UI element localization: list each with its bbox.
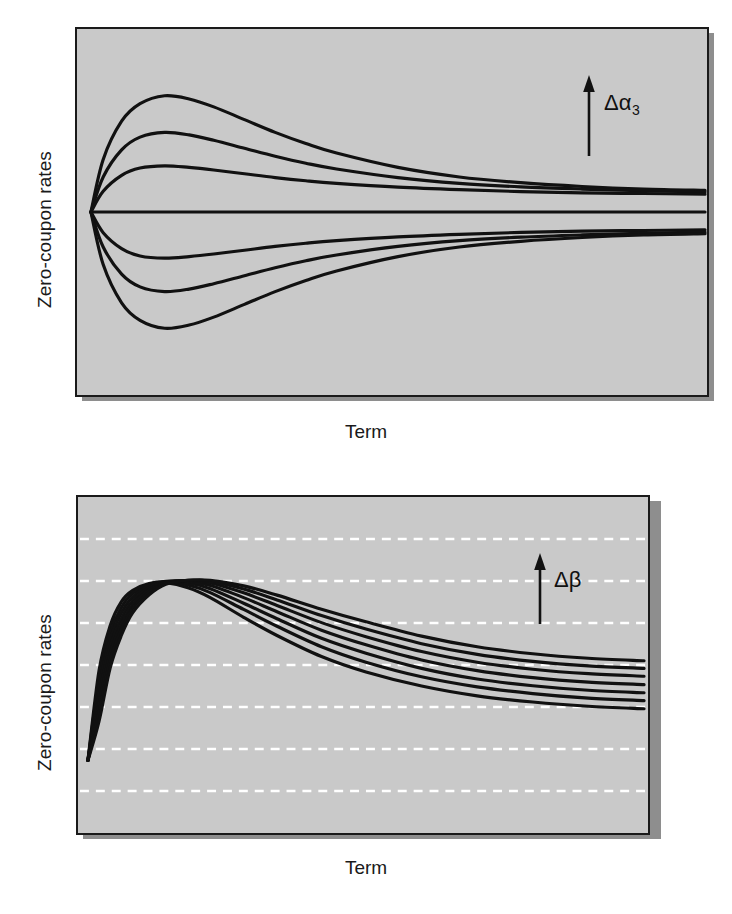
curve-line (91, 132, 705, 212)
bottom-x-axis-label: Term (0, 857, 732, 879)
figure-page: Zero-coupon rates Term Δα3 Zero-coupon r… (0, 0, 732, 914)
top-x-axis-label: Term (0, 421, 732, 443)
curve-line (88, 580, 644, 761)
top-plot-frame (75, 27, 709, 397)
curve-line (91, 212, 705, 292)
top-up-arrow-icon (578, 72, 600, 158)
top-y-axis-label: Zero-coupon rates (34, 151, 56, 308)
bottom-annotation-label: Δβ (554, 569, 582, 594)
bottom-y-axis-label: Zero-coupon rates (34, 614, 56, 771)
bottom-panel: Zero-coupon rates Term Δβ (0, 457, 732, 914)
bottom-plot-frame (76, 495, 650, 835)
bottom-up-arrow-icon (529, 550, 551, 626)
bottom-annotation-symbol: Δβ (554, 567, 581, 592)
top-annotation-subscript: 3 (631, 102, 639, 118)
bottom-plot-svg (78, 497, 648, 833)
top-panel: Zero-coupon rates Term Δα3 (0, 0, 732, 457)
top-curve-group (91, 96, 705, 329)
top-plot-svg (77, 29, 707, 395)
top-annotation-symbol: Δα (604, 90, 631, 115)
top-annotation-label: Δα3 (604, 92, 640, 117)
bottom-annotation-subscript (581, 579, 582, 595)
bottom-curve-group (88, 580, 644, 761)
